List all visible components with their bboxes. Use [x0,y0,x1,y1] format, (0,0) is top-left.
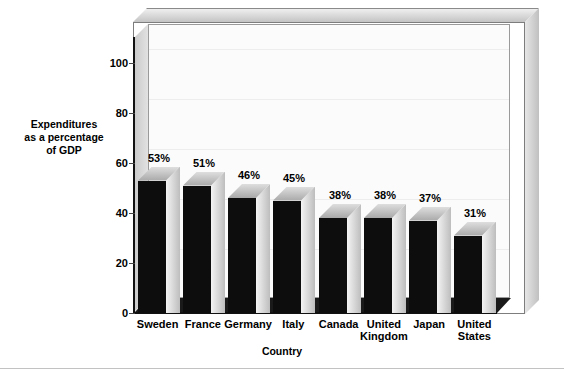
bar-france[interactable] [183,172,211,314]
bar-value-label: 51% [177,157,231,169]
bar-side-face [437,207,451,314]
bar-japan[interactable] [409,207,437,314]
bar-front-face [273,201,301,314]
bar-front-face [364,218,392,313]
bar-germany[interactable] [228,184,256,313]
x-axis-label-line: States [440,330,508,342]
chart-page: · · · · · · · · Expenditures as a percen… [0,0,564,381]
bar-front-face [228,198,256,313]
x-axis-title: Country [0,345,564,357]
bar-front-face [138,181,166,314]
x-axis-label-line: Kingdom [350,330,418,342]
bar-united-states[interactable] [454,222,482,314]
bar-side-face [166,167,180,314]
bar-front-face [409,221,437,314]
bar-side-face [211,172,225,314]
bar-front-face [454,236,482,314]
bar-side-face [482,222,496,314]
bar-front-face [319,218,347,313]
bar-value-label: 37% [403,192,457,204]
page-divider [0,368,564,369]
bar-side-face [347,204,361,313]
x-axis-label-united-states: UnitedStates [440,318,508,342]
bar-united-kingdom[interactable] [364,204,392,313]
bar-side-face [392,204,406,313]
bar-series: 53%51%46%45%38%38%37%31% [0,0,564,356]
bar-side-face [256,184,270,313]
bar-value-label: 31% [448,207,502,219]
bar-side-face [301,187,315,314]
bar-front-face [183,186,211,314]
bar-italy[interactable] [273,187,301,314]
x-axis-label-line: United [440,318,508,330]
bar-sweden[interactable] [138,167,166,314]
bar-value-label: 45% [267,172,321,184]
bar-canada[interactable] [319,204,347,313]
bar-chart: Expenditures as a percentage of GDP 0204… [0,0,564,356]
